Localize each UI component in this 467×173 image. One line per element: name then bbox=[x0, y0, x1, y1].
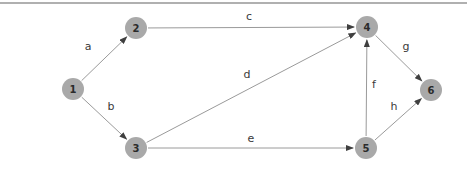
edge-line-b bbox=[82, 97, 127, 139]
edge-label-a: a bbox=[85, 40, 92, 53]
edge-label-d: d bbox=[244, 68, 251, 81]
node-label-5: 5 bbox=[363, 143, 370, 154]
edge-label-c: c bbox=[246, 10, 252, 23]
node-label-1: 1 bbox=[70, 84, 77, 95]
edge-label-b: b bbox=[108, 100, 115, 113]
node-label-3: 3 bbox=[133, 143, 140, 154]
edge-label-h: h bbox=[391, 100, 398, 113]
edge-line-f bbox=[366, 40, 367, 136]
edge-label-g: g bbox=[403, 40, 410, 53]
edge-line-g bbox=[376, 35, 422, 80]
edge-line-c bbox=[148, 27, 354, 28]
node-label-6: 6 bbox=[428, 85, 435, 96]
graph-diagram: abcdefgh123456 bbox=[0, 0, 467, 173]
edge-label-e: e bbox=[248, 132, 255, 145]
edge-label-f: f bbox=[372, 78, 377, 91]
edge-line-d bbox=[147, 33, 356, 142]
node-label-4: 4 bbox=[364, 22, 371, 33]
node-label-2: 2 bbox=[133, 23, 140, 34]
graph-svg: abcdefgh123456 bbox=[0, 0, 467, 173]
edge-line-h bbox=[375, 99, 421, 140]
